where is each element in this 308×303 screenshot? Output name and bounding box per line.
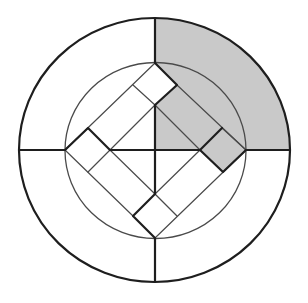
- thick-left-square: [65, 128, 110, 150]
- inner-line-d: [88, 150, 110, 172]
- geometric-diagram: [0, 0, 308, 303]
- inner-line-f: [155, 150, 200, 194]
- inner-line-a: [133, 85, 155, 105]
- inner-line-e: [110, 150, 155, 194]
- thick-bottom-square: [133, 194, 155, 238]
- inner-line-g: [155, 194, 177, 216]
- inner-line-b: [110, 105, 155, 150]
- diamond-edge-bottom-left: [65, 150, 133, 216]
